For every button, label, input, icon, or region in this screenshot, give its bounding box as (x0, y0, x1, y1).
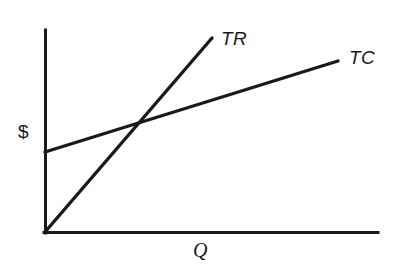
chart-plot-area (0, 0, 404, 269)
total-revenue-line (45, 38, 212, 232)
y-axis-label: $ (18, 122, 29, 141)
total-cost-label: TC (349, 48, 375, 67)
chart-figure: $ Q TR TC (0, 0, 404, 269)
x-axis-label: Q (193, 240, 207, 260)
total-cost-line (45, 61, 338, 152)
total-revenue-label: TR (221, 29, 247, 48)
